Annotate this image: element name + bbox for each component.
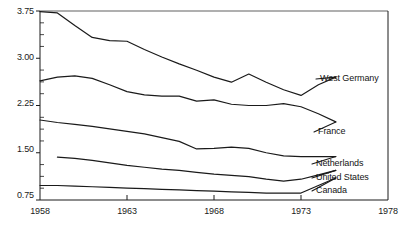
x-tick-label-2: 1968	[196, 206, 232, 216]
x-tick-label-3: 1973	[283, 206, 319, 216]
x-tick-label-1: 1963	[109, 206, 145, 216]
series-label-france: France	[318, 126, 345, 136]
series-label-united-states: United States	[316, 172, 369, 182]
series-label-netherlands: Netherlands	[316, 158, 363, 168]
y-tick-label-1: 3.00	[2, 52, 34, 62]
series-label-west-germany: West Germany	[320, 73, 379, 83]
series-line-united-states	[57, 157, 335, 181]
y-tick-label-0: 3.75	[2, 6, 34, 16]
series-line-west-germany	[40, 12, 336, 96]
x-tick-label-4: 1978	[370, 206, 406, 216]
chart-series-lines	[40, 12, 336, 193]
y-tick-label-2: 2.25	[2, 98, 34, 108]
series-line-france	[40, 76, 336, 122]
series-label-canada: Canada	[316, 185, 347, 195]
series-line-netherlands	[40, 120, 336, 157]
x-tick-label-0: 1958	[22, 206, 58, 216]
y-tick-label-4: 0.75	[2, 190, 34, 200]
y-tick-label-3: 1.50	[2, 144, 34, 154]
line-chart: 3.753.002.251.500.75 1958196319681973197…	[0, 0, 406, 228]
